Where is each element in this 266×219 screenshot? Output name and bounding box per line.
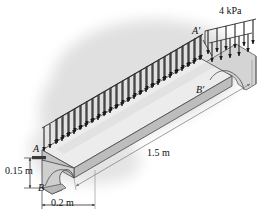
point-label-b: B: [38, 183, 44, 193]
dimension-label-width: 0.2 m: [51, 198, 74, 208]
point-label-a: A: [33, 144, 39, 154]
point-label-b-prime: B': [196, 85, 204, 95]
beam-load-diagram: 4 kPa A' B' A B 1.5 m 0.15 m 0.2 m: [0, 0, 266, 219]
load-label: 4 kPa: [219, 6, 242, 16]
dimension-label-length: 1.5 m: [147, 148, 170, 158]
point-label-a-prime: A': [192, 26, 200, 36]
support-tick-a: [32, 156, 46, 159]
dimension-label-height: 0.15 m: [5, 166, 33, 176]
